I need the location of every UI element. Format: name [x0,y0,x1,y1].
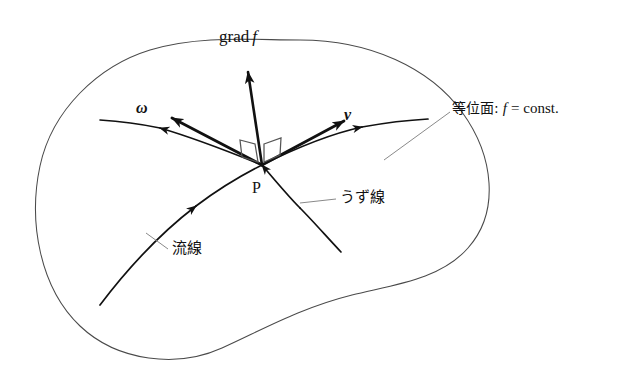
leader-vortex-line [300,199,336,203]
vortex-line-label: うず線 [340,190,385,205]
right-angle-marker-right [264,138,281,162]
vortex-line-arrow-lower [262,165,300,208]
v-vector [262,121,344,165]
level-surface-value: const. [521,100,560,116]
omega-vector-label: ω [136,100,148,116]
level-surface-equals: = [509,100,521,116]
point-p-marker [260,163,263,166]
velocity-vector-label: v [344,107,351,123]
level-surface-outline [36,39,490,359]
diagram-canvas [0,0,630,388]
vortex-line-upper [160,128,262,165]
figure-root: gradf ω v P 等位面:f=const. うず線 流線 [0,0,630,388]
level-surface-label: 等位面:f=const. [452,101,561,116]
grad-f-vector [248,72,262,165]
streamline-curve-right [262,127,362,165]
grad-f-function: f [249,27,257,46]
vortex-line-lower [300,208,341,252]
point-p-label: P [252,180,261,196]
right-angle-marker-left [240,140,258,162]
streamline-curve-tail [362,119,428,127]
omega-vector [172,118,262,165]
level-surface-jp-text: 等位面: [452,100,499,116]
streamline-label: 流線 [172,241,202,256]
vortex-line-tail [100,120,160,128]
level-surface-function: f [499,100,509,116]
grad-f-label: gradf [219,28,257,45]
grad-f-prefix: grad [219,27,249,46]
